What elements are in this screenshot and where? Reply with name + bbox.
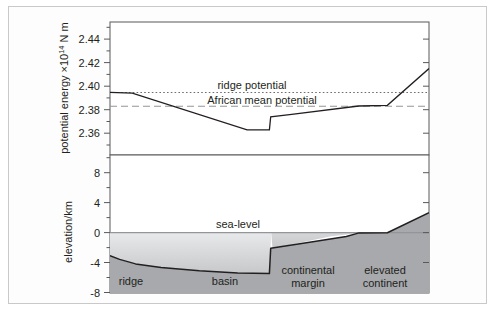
svg-text:potential energy ×1014 N m: potential energy ×1014 N m xyxy=(57,22,70,154)
lower-ytick-label: 0 xyxy=(94,227,100,239)
upper-ylabel-after: N m xyxy=(58,22,70,45)
lower-ytick-label: 8 xyxy=(94,167,100,179)
ridge-potential-label: ridge potential xyxy=(217,79,286,91)
upper-panel: 2.44 2.42 2.40 2.38 2.36 potential energ… xyxy=(57,22,429,155)
lower-panel: 8 4 0 -4 -8 elevation/km sea-level ridge… xyxy=(62,155,429,299)
upper-ytick-label: 2.40 xyxy=(79,80,100,92)
region-label-elevated-continent: elevated continent xyxy=(363,264,408,289)
african-mean-potential-label: African mean potential xyxy=(207,94,316,106)
region-label-continental-margin-line2: margin xyxy=(291,277,325,289)
lower-y-tick-labels: 8 4 0 -4 -8 xyxy=(90,167,100,299)
lower-ytick-label: 4 xyxy=(94,197,100,209)
region-label-continental-margin-line1: continental xyxy=(281,264,334,276)
upper-ytick-label: 2.42 xyxy=(79,57,100,69)
region-label-basin: basin xyxy=(212,275,238,287)
region-label-elevated-continent-line2: continent xyxy=(363,277,408,289)
sea-level-label: sea-level xyxy=(216,218,260,230)
region-label-ridge: ridge xyxy=(119,275,143,287)
lower-y-axis-title: elevation/km xyxy=(62,201,74,263)
upper-ytick-label: 2.44 xyxy=(79,33,100,45)
geodynamics-profile-chart: 2.44 2.42 2.40 2.38 2.36 potential energ… xyxy=(0,0,497,312)
upper-ytick-label: 2.36 xyxy=(79,127,100,139)
upper-ylabel-before: potential energy ×10 xyxy=(58,54,70,154)
upper-y-ticks xyxy=(104,27,110,145)
lower-y-ticks xyxy=(104,158,110,293)
lower-ytick-label: -8 xyxy=(90,287,100,299)
upper-y-axis-title: potential energy ×1014 N m xyxy=(57,22,70,154)
upper-ylabel-superscript: 14 xyxy=(57,45,66,53)
upper-y-tick-labels: 2.44 2.42 2.40 2.38 2.36 xyxy=(79,33,100,139)
region-label-elevated-continent-line1: elevated xyxy=(364,264,406,276)
lower-ytick-label: -4 xyxy=(90,257,100,269)
upper-ytick-label: 2.38 xyxy=(79,104,100,116)
figure-container: 2.44 2.42 2.40 2.38 2.36 potential energ… xyxy=(0,0,497,312)
